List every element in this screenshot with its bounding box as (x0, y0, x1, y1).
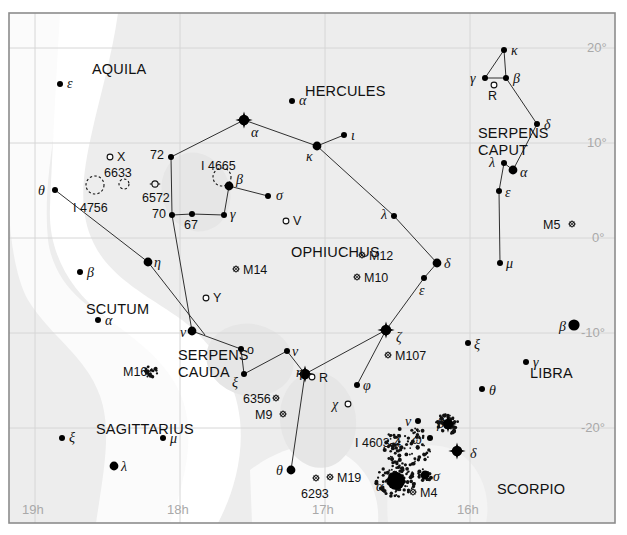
star-symbol (189, 211, 195, 217)
star-symbol (289, 98, 295, 104)
deep-sky-symbol-6356 (272, 394, 279, 401)
star-label-ophiuchus: 67 (184, 219, 198, 232)
star-label-serpens-caput: λ (489, 156, 495, 170)
star-label-serpens2: ν (292, 345, 298, 359)
deep-sky-symbol-M4 (409, 488, 416, 495)
variable-star-symbol (203, 295, 209, 301)
variable-star-symbol (309, 374, 315, 380)
star-label-ophiuchus: ζ (396, 331, 402, 345)
deep-sky-symbol-M9 (279, 410, 286, 417)
constellation-label-serpens: SERPENS (478, 126, 549, 141)
deep-sky-label-M9: M9 (255, 409, 272, 422)
dec-tick-20: 20° (587, 40, 607, 55)
deep-sky-label-M12: M12 (369, 250, 393, 263)
star-symbol (144, 258, 153, 267)
star-symbol (387, 472, 405, 490)
star-symbol (313, 142, 322, 151)
dec-tick-10: 10° (587, 135, 607, 150)
deep-sky-label-M4: M4 (420, 487, 437, 500)
star-symbol (427, 435, 433, 441)
variable-star-label-y: Y (213, 292, 221, 305)
star-label-libra: γ (533, 356, 539, 370)
star-label-sagittarius: λ (121, 460, 127, 474)
star-symbol (188, 327, 197, 336)
star-symbol (59, 435, 65, 441)
star-label-serpens-caput: R (488, 90, 497, 103)
deep-sky-symbol-M14 (232, 265, 239, 272)
star-symbol (501, 160, 507, 166)
star-label-ophiuchus: γ (230, 208, 236, 222)
star-label-ophiuchus-phi: φ (363, 379, 371, 393)
star-label-scorpio: σ (433, 470, 440, 484)
star-symbol (491, 82, 497, 88)
star-map-canvas (0, 0, 627, 535)
deep-sky-label-M14: M14 (243, 264, 267, 277)
ra-tick-19h: 19h (22, 502, 44, 517)
constellation-label-hercules: HERCULES (305, 84, 386, 99)
deep-sky-label-M19: M19 (337, 472, 361, 485)
variable-star-label-x: X (117, 151, 125, 164)
star-symbol (482, 75, 488, 81)
star-symbol (465, 340, 471, 346)
star-symbol (509, 166, 518, 175)
star-symbol (168, 154, 174, 160)
deep-sky-label-6356: 6356 (243, 393, 271, 406)
star-label-scorpio: α (376, 480, 383, 494)
star-symbol (345, 401, 351, 407)
star-label-scorpio: ω (412, 433, 422, 447)
star-label-ophiuchus: β (236, 173, 243, 187)
star-symbol (523, 359, 529, 365)
star-label-serpens: o (247, 344, 254, 357)
deep-sky-label-I-4603-4: I 4603-4 (355, 437, 401, 450)
variable-star-symbol (283, 218, 289, 224)
deep-sky-label-I-4665: I 4665 (201, 160, 236, 173)
ra-tick-16h: 16h (457, 502, 479, 517)
constellation-label-scutum: SCUTUM (86, 302, 149, 317)
constellation-label-ophiuchus: OPHIUCHUS (291, 245, 380, 260)
deep-sky-label-M10: M10 (364, 272, 388, 285)
star-symbol (568, 319, 579, 330)
star-label-scorpio: δ (470, 447, 477, 461)
variable-star-label-r: R (319, 372, 328, 385)
star-label-serpens-caput: α (520, 166, 527, 180)
deep-sky-symbol-6293 (312, 474, 319, 481)
star-label-libra-xi: ξ (474, 338, 480, 352)
star-symbol (110, 462, 119, 471)
star-symbol (341, 132, 347, 138)
star-label-libra: β (559, 320, 566, 334)
deep-sky-label-M107: M107 (395, 350, 426, 363)
star-symbol (415, 418, 421, 424)
star-symbol (284, 348, 290, 354)
star-label-scorpio-beta: β (437, 417, 444, 431)
star-symbol (241, 371, 247, 377)
star-label-ophiuchus-chi: χ (332, 398, 338, 412)
constellation-label-aquila: AQUILA (92, 62, 146, 77)
star-symbol (221, 212, 227, 218)
star-symbol (501, 47, 507, 53)
star-symbol (479, 386, 485, 392)
star-label-ophiuchus: α (251, 126, 258, 140)
star-symbol (225, 182, 234, 191)
star-label-libra-theta: θ (489, 384, 496, 398)
star-symbol (169, 212, 175, 218)
dec-tick-neg20: -20° (581, 420, 605, 435)
star-label-serpens: ξ (232, 376, 238, 390)
deep-sky-label-M5: M5 (543, 219, 560, 232)
variable-star-symbol (107, 154, 113, 160)
star-label-serpens: ν (180, 326, 186, 340)
star-label-scorpio: ν (405, 415, 411, 429)
constellation-label-caput: CAPUT (478, 143, 528, 158)
star-label-scutum: β (87, 266, 94, 280)
star-label-ophiuchus-th: θ (276, 464, 283, 478)
star-label-sagittarius: μ (170, 432, 177, 446)
variable-star-label-v: V (293, 215, 301, 228)
ra-tick-17h: 17h (312, 502, 334, 517)
star-symbol (391, 213, 397, 219)
star-label-sagittarius: ξ (69, 431, 75, 445)
star-symbol (287, 466, 296, 475)
ra-tick-18h: 18h (167, 502, 189, 517)
deep-sky-label-6633: 6633 (104, 167, 132, 180)
deep-sky-label-I-4756: I 4756 (73, 202, 108, 215)
star-label-serpens-caput: ε (505, 186, 511, 200)
deep-sky-symbol-M5 (568, 220, 575, 227)
